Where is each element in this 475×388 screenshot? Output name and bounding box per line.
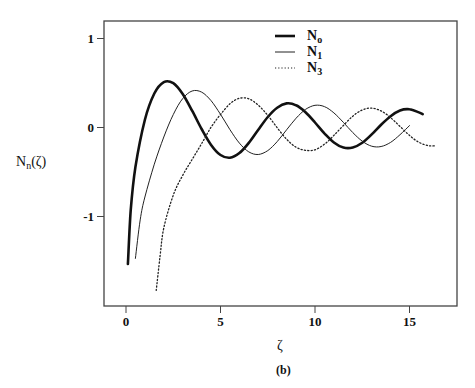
plot-frame — [104, 21, 457, 306]
bessel-chart: 10-1 051015 No N1 N3 Nn(ζ) ζ (b) — [0, 0, 475, 388]
curve-n3 — [156, 98, 436, 291]
y-tick-label: 0 — [88, 120, 95, 135]
legend-label-n0: No — [307, 28, 322, 45]
x-tick-label: 5 — [217, 314, 224, 329]
x-tick-label: 15 — [403, 314, 417, 329]
y-tick-label: -1 — [83, 209, 94, 224]
legend: No N1 N3 — [275, 28, 322, 77]
plot-curves — [128, 81, 436, 290]
y-axis-ticks: 10-1 — [83, 31, 104, 224]
x-tick-label: 0 — [123, 314, 130, 329]
x-axis-label: ζ — [277, 338, 283, 353]
curve-n1 — [135, 90, 409, 258]
x-tick-label: 10 — [309, 314, 322, 329]
figure-caption: (b) — [276, 363, 291, 377]
legend-label-n1: N1 — [307, 44, 322, 61]
legend-label-n3: N3 — [307, 60, 322, 77]
y-axis-label: Nn(ζ) — [16, 154, 47, 171]
y-tick-label: 1 — [88, 31, 95, 46]
x-axis-ticks: 051015 — [123, 306, 417, 329]
curve-n0 — [128, 81, 423, 264]
